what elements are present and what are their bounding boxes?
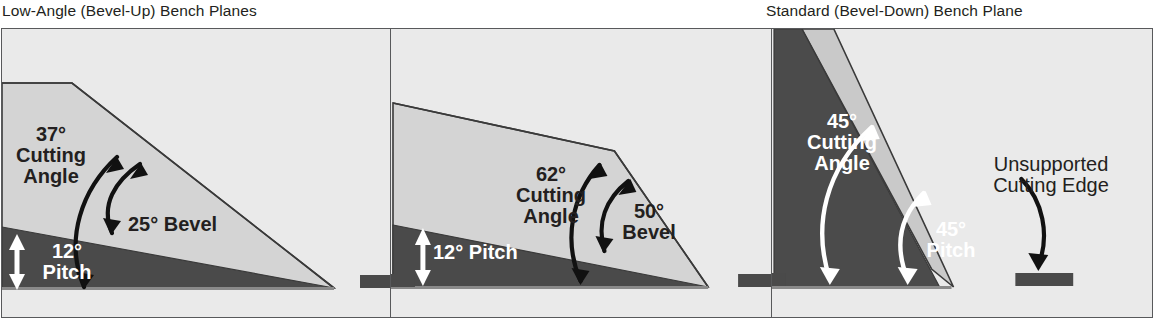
panel-2-cutting-angle-label: 62° Cutting Angle <box>509 164 593 227</box>
pitch-word: Pitch <box>32 262 102 283</box>
panel-1-bevel-label: 25° Bevel <box>128 214 217 235</box>
panel-3-unsupported-edge-label: Unsupported Cutting Edge <box>976 154 1126 196</box>
cutting-angle-word-1: Cutting <box>8 145 94 166</box>
panel-low-angle-50: 62° Cutting Angle 50° Bevel 12° Pitch <box>390 29 771 317</box>
cutting-angle-value: 62° <box>509 164 593 185</box>
cutting-angle-word-2: Angle <box>509 206 593 227</box>
caption-low-angle: Low-Angle (Bevel-Up) Bench Planes <box>2 2 257 20</box>
sole-line <box>391 286 708 289</box>
cutting-angle-word-1: Cutting <box>509 185 593 206</box>
bevel-word: Bevel <box>613 222 685 243</box>
caption-standard: Standard (Bevel-Down) Bench Plane <box>766 2 1023 20</box>
unsupported-line-1: Unsupported <box>976 154 1126 175</box>
panel-standard-bevel-down: 45° Cutting Angle 45° Pitch Unsupported … <box>771 29 1151 317</box>
cutting-angle-word-2: Angle <box>8 166 94 187</box>
panel-3-cutting-angle-label: 45° Cutting Angle <box>796 111 888 174</box>
unsupported-line-2: Cutting Edge <box>976 175 1126 196</box>
panel-low-angle-25: 37° Cutting Angle 25° Bevel 12° Pitch <box>2 29 390 317</box>
cutting-angle-word-1: Cutting <box>796 132 888 153</box>
figure-frame: 37° Cutting Angle 25° Bevel 12° Pitch <box>1 28 1153 318</box>
workpiece-bar <box>360 275 390 288</box>
workpiece-bar-left <box>391 274 415 287</box>
sole-line <box>2 287 334 290</box>
workpiece-bar-right <box>1015 273 1073 286</box>
cutting-angle-value: 37° <box>8 124 94 145</box>
cutting-angle-word-2: Angle <box>796 153 888 174</box>
pitch-value: 12° <box>32 241 102 262</box>
panel-1-pitch-label: 12° Pitch <box>32 241 102 283</box>
sole-line <box>772 286 952 289</box>
workpiece-bar-right <box>738 274 771 287</box>
pitch-word: Pitch <box>918 240 984 261</box>
panel-2-pitch-label: 12° Pitch <box>433 242 518 263</box>
workpiece-bar-left <box>772 273 786 286</box>
cutting-angle-value: 45° <box>796 111 888 132</box>
panel-3-pitch-label: 45° Pitch <box>918 219 984 261</box>
figure-root: Low-Angle (Bevel-Up) Bench Planes Standa… <box>0 0 1156 325</box>
panel-2-bevel-label: 50° Bevel <box>613 201 685 243</box>
panel-1-cutting-angle-label: 37° Cutting Angle <box>8 124 94 187</box>
bevel-value: 50° <box>613 201 685 222</box>
pitch-value: 45° <box>918 219 984 240</box>
